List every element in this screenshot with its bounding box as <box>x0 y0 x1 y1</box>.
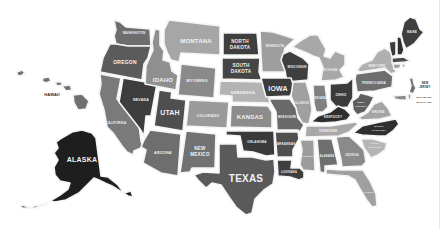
state-shape-mississippi[interactable] <box>300 140 315 171</box>
state-shape-tennessee[interactable] <box>305 122 358 137</box>
state-shape-arkansas[interactable] <box>275 132 299 157</box>
us-states-map: HAWAII ALASKA WASHINGTON OREGON CALIFORN… <box>0 0 447 229</box>
state-shape-florida[interactable] <box>326 169 377 207</box>
state-shape-pennsylvania[interactable] <box>355 70 393 92</box>
label-new-jersey-1: NEW <box>422 81 429 85</box>
state-shape-iowa[interactable] <box>261 78 294 97</box>
state-shape-north-carolina[interactable] <box>353 119 399 136</box>
state-shape-massachusetts[interactable] <box>392 57 411 63</box>
state-shape-north-dakota[interactable] <box>223 33 259 55</box>
label-delaware: DELAWARE <box>416 96 431 99</box>
state-shape-new-mexico[interactable] <box>180 131 216 173</box>
state-shape-indiana[interactable] <box>313 85 328 112</box>
state-shape-delaware[interactable] <box>408 94 411 99</box>
label-hawaii: HAWAII <box>44 92 59 97</box>
state-shape-new-jersey[interactable] <box>409 78 416 94</box>
state-shape-arizona[interactable] <box>141 130 181 176</box>
state-shape-maine[interactable] <box>401 17 424 49</box>
state-shape-hawaii-island-2[interactable] <box>42 77 51 83</box>
state-shape-oregon[interactable] <box>100 44 151 80</box>
state-shape-kansas[interactable] <box>230 105 272 128</box>
label-new-jersey-2: JERSEY <box>419 85 431 89</box>
state-alaska[interactable] <box>20 130 133 208</box>
state-shape-wyoming[interactable] <box>178 64 216 98</box>
state-shape-alabama[interactable] <box>317 139 338 173</box>
state-shape-south-dakota[interactable] <box>222 58 262 80</box>
state-shape-hawaii-big-island[interactable] <box>73 94 89 110</box>
state-shape-maryland[interactable] <box>393 95 407 100</box>
state-hawaii[interactable] <box>17 70 89 110</box>
state-shape-washington[interactable] <box>114 20 151 46</box>
state-shape-connecticut[interactable] <box>393 64 401 69</box>
state-shape-colorado[interactable] <box>186 100 229 128</box>
state-shape-hawaii[interactable] <box>17 70 25 76</box>
label-maryland: MARYLAND <box>416 101 431 104</box>
state-shape-hawaii-island-4[interactable] <box>62 85 72 91</box>
state-shape-montana[interactable] <box>164 20 220 62</box>
state-shape-rhode-island[interactable] <box>402 64 405 67</box>
state-shape-utah[interactable] <box>154 90 186 131</box>
state-shape-alaska-aleutians[interactable] <box>20 203 48 208</box>
state-shape-ohio[interactable] <box>330 78 353 108</box>
